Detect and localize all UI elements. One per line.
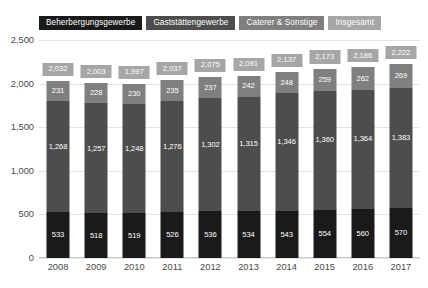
bar-segment-value-label: 518 [90,232,102,240]
bar-total-label: 2,003 [81,65,112,78]
x-tick-label: 2008 [39,262,77,272]
bar-segment-value-label: 237 [204,84,216,92]
bar-total-label: 2,091 [233,58,264,71]
stacked-bar-chart: Beherbergungsgewerbe Gaststättengewerbe … [0,0,428,288]
bar-segment-beherbergungsgewerbe[interactable]: 560 [351,209,374,258]
bar-segment-value-label: 1,257 [87,145,106,153]
bar-segment-beherbergungsgewerbe[interactable]: 519 [123,213,146,258]
bar-column[interactable]: 2691,3835702,222 [382,40,420,258]
bar-total-label: 1,997 [119,66,150,79]
x-tick-label: 2010 [115,262,153,272]
bar-column[interactable]: 2621,3645602,186 [344,40,382,258]
stacked-bar[interactable]: 2691,383570 [389,64,412,258]
bar-group: 2311,2685332,0322281,2575182,0032301,248… [39,40,420,258]
bar-segment-value-label: 536 [204,231,216,239]
x-tick-label: 2014 [268,262,306,272]
bar-column[interactable]: 2351,2765262,037 [153,40,191,258]
bar-segment-value-label: 248 [280,79,292,87]
y-tick-label: 2,500 [11,35,34,45]
legend-item-beherbergungsgewerbe[interactable]: Beherbergungsgewerbe [39,16,142,30]
bar-total-label: 2,037 [157,62,188,75]
bar-segment-value-label: 519 [128,232,140,240]
bar-segment-value-label: 560 [357,230,369,238]
bar-segment-value-label: 1,360 [315,136,334,144]
bar-column[interactable]: 2591,3605542,173 [306,40,344,258]
bar-column[interactable]: 2421,3155342,091 [229,40,267,258]
stacked-bar[interactable]: 2281,257518 [85,83,108,258]
bar-segment-value-label: 259 [319,76,331,84]
stacked-bar[interactable]: 2311,268533 [47,81,70,258]
x-tick-label: 2015 [306,262,344,272]
gridline [39,258,420,259]
bar-column[interactable]: 2481,3465432,137 [268,40,306,258]
bar-segment-beherbergungsgewerbe[interactable]: 570 [389,208,412,258]
bar-segment-value-label: 242 [242,82,254,90]
bar-segment-value-label: 526 [166,231,178,239]
bar-segment-gastst-ttengewerbe[interactable]: 1,257 [85,103,108,213]
bar-segment-gastst-ttengewerbe[interactable]: 1,364 [351,90,374,209]
bar-segment-gastst-ttengewerbe[interactable]: 1,276 [161,101,184,212]
bar-total-label: 2,137 [271,54,302,67]
bar-segment-caterer-sonstige[interactable]: 235 [161,80,184,100]
bar-segment-gastst-ttengewerbe[interactable]: 1,346 [275,93,298,210]
bar-segment-beherbergungsgewerbe[interactable]: 518 [85,213,108,258]
bar-segment-caterer-sonstige[interactable]: 262 [351,67,374,90]
stacked-bar[interactable]: 2591,360554 [313,69,336,258]
legend-item-insgesamt[interactable]: Insgesamt [328,16,381,30]
bar-segment-caterer-sonstige[interactable]: 242 [237,76,260,97]
legend-item-caterer-sonstige[interactable]: Caterer & Sonstige [239,16,324,30]
bar-segment-gastst-ttengewerbe[interactable]: 1,315 [237,97,260,212]
bar-segment-beherbergungsgewerbe[interactable]: 554 [313,210,336,258]
stacked-bar[interactable]: 2421,315534 [237,76,260,258]
stacked-bar[interactable]: 2621,364560 [351,67,374,258]
stacked-bar[interactable]: 2371,302536 [199,77,222,258]
bar-segment-value-label: 1,315 [239,140,258,148]
bar-segment-value-label: 228 [90,89,102,97]
bar-segment-value-label: 1,302 [201,141,220,149]
bar-segment-gastst-ttengewerbe[interactable]: 1,360 [313,91,336,210]
bar-total-label: 2,075 [195,59,226,72]
bar-segment-caterer-sonstige[interactable]: 248 [275,72,298,94]
bar-segment-value-label: 543 [280,231,292,239]
x-tick-label: 2017 [382,262,420,272]
bar-segment-caterer-sonstige[interactable]: 228 [85,83,108,103]
bar-segment-caterer-sonstige[interactable]: 237 [199,77,222,98]
y-tick-label: 1,500 [11,122,34,132]
stacked-bar[interactable]: 2301,248519 [123,84,146,258]
legend-item-gaststaettengewerbe[interactable]: Gaststättengewerbe [146,16,235,30]
bar-segment-value-label: 1,346 [277,138,296,146]
bar-segment-beherbergungsgewerbe[interactable]: 543 [275,211,298,258]
bar-segment-value-label: 235 [166,87,178,95]
bar-segment-beherbergungsgewerbe[interactable]: 534 [237,211,260,258]
bar-segment-value-label: 262 [357,75,369,83]
x-tick-label: 2016 [344,262,382,272]
bar-total-label: 2,222 [385,46,416,59]
bar-segment-caterer-sonstige[interactable]: 231 [47,81,70,101]
bar-column[interactable]: 2301,2485191,997 [115,40,153,258]
x-tick-label: 2011 [153,262,191,272]
legend-label: Gaststättengewerbe [153,16,228,30]
bar-column[interactable]: 2311,2685332,032 [39,40,77,258]
bar-segment-beherbergungsgewerbe[interactable]: 533 [47,212,70,258]
bar-segment-beherbergungsgewerbe[interactable]: 536 [199,211,222,258]
x-tick-label: 2012 [191,262,229,272]
stacked-bar[interactable]: 2351,276526 [161,80,184,258]
y-tick-label: 2,000 [11,79,34,89]
bar-segment-gastst-ttengewerbe[interactable]: 1,268 [47,101,70,212]
bar-segment-caterer-sonstige[interactable]: 259 [313,69,336,92]
bar-segment-caterer-sonstige[interactable]: 230 [123,84,146,104]
plot-area: 05001,0001,5002,0002,500 2311,2685332,03… [39,40,420,258]
bar-segment-value-label: 1,268 [49,143,68,151]
bar-segment-beherbergungsgewerbe[interactable]: 526 [161,212,184,258]
bar-column[interactable]: 2281,2575182,003 [77,40,115,258]
bar-segment-caterer-sonstige[interactable]: 269 [389,64,412,87]
bar-segment-gastst-ttengewerbe[interactable]: 1,248 [123,104,146,213]
legend-label: Caterer & Sonstige [246,16,317,30]
bar-segment-gastst-ttengewerbe[interactable]: 1,383 [389,88,412,209]
legend-label: Insgesamt [335,16,374,30]
stacked-bar[interactable]: 2481,346543 [275,72,298,258]
bar-segment-gastst-ttengewerbe[interactable]: 1,302 [199,98,222,212]
x-tick-label: 2009 [77,262,115,272]
bar-column[interactable]: 2371,3025362,075 [191,40,229,258]
x-tick-label: 2013 [229,262,267,272]
